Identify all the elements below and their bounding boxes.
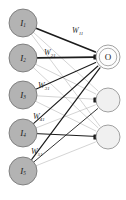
weight-labels-group: W11W21W31W41W51 bbox=[31, 26, 83, 157]
edge-i3-o3 bbox=[36, 101, 96, 131]
edge-i5-o3 bbox=[36, 142, 95, 166]
edge-i3-o2 bbox=[37, 96, 95, 99]
output-node-o2[interactable] bbox=[96, 88, 120, 112]
edge-i4-o1 bbox=[33, 66, 97, 124]
output-node-o3[interactable] bbox=[96, 125, 120, 149]
edges-group bbox=[31, 28, 100, 166]
weight-label-w51: W51 bbox=[31, 147, 43, 157]
neural-network-diagram: O I1I2I3I4I5 W11W21W31W41W51 bbox=[0, 0, 126, 200]
network-svg: O I1I2I3I4I5 W11W21W31W41W51 bbox=[0, 0, 126, 200]
weight-label-w11: W11 bbox=[72, 26, 83, 36]
edge-i4-o2 bbox=[36, 105, 95, 128]
output-nodes-group: O bbox=[96, 45, 120, 149]
weight-label-w41: W41 bbox=[33, 112, 45, 122]
weight-label-w31: W31 bbox=[38, 81, 50, 91]
output-node-label-o1: O bbox=[105, 52, 112, 62]
weight-label-w21: W21 bbox=[44, 48, 56, 58]
edge-i2-o1 bbox=[37, 57, 95, 58]
